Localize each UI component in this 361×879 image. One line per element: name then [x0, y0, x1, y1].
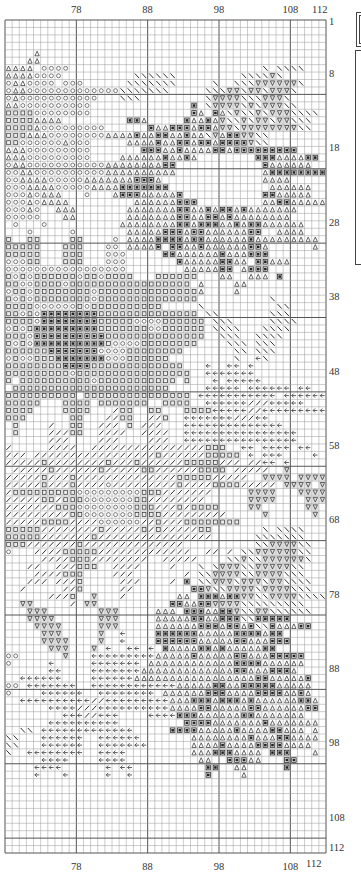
cell-triangle-up: [292, 735, 296, 740]
cell-square-outline: [162, 340, 169, 347]
cell-forward-slash: [156, 497, 160, 502]
cell-square-outline: [155, 333, 162, 340]
cell-square-filled-cross: [312, 705, 319, 712]
cell-square-filled-cross: [226, 132, 233, 139]
cell-square-outline: [205, 519, 212, 526]
cell-triangle-up: [21, 178, 25, 183]
cell-backslash: [320, 594, 324, 599]
cell-forward-slash: [170, 505, 174, 510]
cell-circle: [7, 96, 11, 100]
cell-forward-slash: [149, 423, 153, 428]
cell-triangle-up: [228, 639, 232, 644]
cell-triangle-up: [285, 624, 289, 629]
cell-triangle-up: [163, 624, 167, 629]
cell-left-arrow: [71, 728, 75, 732]
cell-triangle-up: [299, 185, 303, 190]
cell-backslash: [277, 66, 281, 71]
cell-square-outline: [5, 132, 12, 139]
cell-left-arrow: [185, 416, 189, 420]
cell-backslash: [228, 341, 232, 346]
cell-backslash: [242, 549, 246, 554]
cell-square-filled-cross: [312, 154, 319, 161]
cell-backslash: [220, 319, 224, 324]
cell-square-filled-cross: [198, 586, 205, 593]
cell-triangle-up: [242, 676, 246, 681]
cell-triangle-up: [35, 178, 39, 183]
cell-circle: [78, 81, 82, 85]
cell-triangle-down: [269, 87, 276, 94]
cell-forward-slash: [56, 579, 60, 584]
cell-triangle-up: [306, 683, 310, 688]
cell-circle: [7, 691, 11, 695]
cell-circle: [28, 156, 32, 160]
cell-square-outline: [134, 288, 141, 295]
cell-square-outline: [177, 392, 184, 399]
cell-square-outline: [177, 273, 184, 280]
cell-square-filled-cross: [248, 221, 255, 228]
cell-square-outline: [226, 481, 233, 488]
cell-forward-slash: [185, 483, 189, 488]
cell-square-outline: [184, 325, 191, 332]
cell-left-arrow: [121, 632, 125, 636]
cell-triangle-up: [235, 230, 239, 235]
cell-triangle-up: [292, 230, 296, 235]
cell-circle: [71, 156, 75, 160]
cell-triangle-down: [41, 608, 48, 615]
cell-square-filled-cross: [62, 318, 69, 325]
cell-square-outline: [27, 400, 34, 407]
cell-left-arrow: [85, 699, 89, 703]
cell-forward-slash: [71, 445, 75, 450]
cell-square-filled-cross: [48, 333, 55, 340]
cell-triangle-up: [313, 245, 317, 250]
cell-square-outline: [162, 273, 169, 280]
x-tick-top-112: 112: [312, 5, 327, 16]
cell-circle: [106, 89, 110, 93]
cell-triangle-down: [291, 80, 298, 87]
cell-left-arrow: [128, 765, 132, 769]
cell-square-outline: [12, 541, 19, 548]
cell-square-outline: [212, 504, 219, 511]
cell-left-arrow: [63, 699, 67, 703]
cell-triangle-down: [248, 139, 255, 146]
cell-left-arrow: [92, 684, 96, 688]
cell-square-outline: [148, 348, 155, 355]
cell-left-arrow: [63, 743, 67, 747]
cell-triangle-up: [277, 706, 281, 711]
cell-circle: [42, 111, 46, 115]
cell-square-filled-cross: [262, 266, 269, 273]
cell-forward-slash: [28, 579, 32, 584]
cell-square-filled-cross: [234, 630, 241, 637]
cell-forward-slash: [35, 564, 39, 569]
cell-square-filled-cross: [241, 652, 248, 659]
cell-square-outline: [134, 325, 141, 332]
cell-triangle-up: [249, 646, 253, 651]
cell-triangle-down: [98, 623, 105, 630]
cell-triangle-up: [156, 155, 160, 160]
cell-left-arrow: [306, 386, 310, 390]
cell-square-outline: [134, 355, 141, 362]
cell-triangle-up: [192, 602, 196, 607]
cell-circle: [28, 282, 32, 286]
cell-square-outline: [70, 273, 77, 280]
cell-left-arrow: [156, 699, 160, 703]
cell-circle: [85, 133, 89, 137]
cell-backslash: [6, 743, 10, 748]
cell-square-filled-cross: [241, 206, 248, 213]
cell-backslash: [235, 118, 239, 123]
cell-left-arrow: [49, 721, 53, 725]
cell-triangle-up: [285, 259, 289, 264]
cell-left-arrow: [28, 751, 32, 755]
cell-square-outline: [70, 422, 77, 429]
cell-triangle-up: [270, 259, 274, 264]
cell-circle: [57, 304, 61, 308]
cell-triangle-up: [170, 609, 174, 614]
cell-square-filled-cross: [241, 638, 248, 645]
cell-triangle-up: [192, 155, 196, 160]
cell-square-outline: [141, 377, 148, 384]
cell-triangle-up: [199, 661, 203, 666]
cell-forward-slash: [206, 490, 210, 495]
cell-backslash: [213, 319, 217, 324]
cell-triangle-up: [285, 207, 289, 212]
cell-left-arrow: [128, 743, 132, 747]
cell-forward-slash: [163, 475, 167, 480]
